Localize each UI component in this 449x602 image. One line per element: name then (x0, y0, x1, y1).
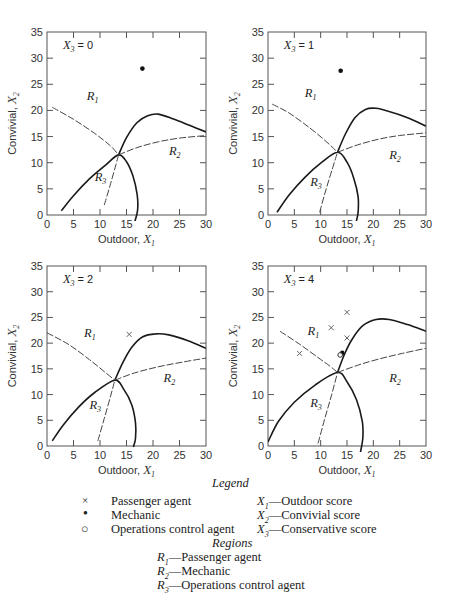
boundary-solid-lower (52, 380, 136, 447)
region-label: R1 (86, 89, 99, 105)
legend-symbol-passenger: × (82, 494, 88, 506)
mechanic-point (140, 66, 145, 71)
region-label: R1 (307, 324, 320, 340)
y-tick-label: 15 (252, 363, 264, 375)
x-axis-label: Outdoor, X1 (98, 231, 155, 248)
y-axis-label: Convivial, X2 (4, 325, 21, 388)
x-tick-label: 5 (291, 449, 297, 461)
boundary-dashed (47, 333, 115, 380)
region-label: R2 (388, 371, 401, 387)
y-tick-label: 30 (252, 52, 264, 64)
legend-label-mechanic: Mechanic (111, 508, 160, 523)
region-r3: R3—Operations control agent (157, 578, 305, 595)
boundary-solid-upper (115, 334, 206, 380)
y-tick-label: 0 (37, 440, 43, 452)
legend-symbol-mechanic: ● (83, 508, 88, 517)
y-axis-label: Convivial, X2 (225, 92, 242, 155)
y-tick-label: 0 (258, 209, 264, 221)
passenger-point (329, 325, 334, 330)
y-tick-label: 35 (31, 260, 43, 272)
x-tick-label: 30 (200, 218, 212, 230)
region-label: R1 (83, 326, 96, 342)
legend-title: Legend (212, 476, 249, 491)
x-tick-label: 0 (265, 449, 271, 461)
y-tick-label: 0 (258, 440, 264, 452)
x-tick-label: 10 (94, 218, 106, 230)
ops-agent-point (338, 353, 343, 358)
plot-frame (268, 266, 426, 446)
y-tick-label: 15 (31, 363, 43, 375)
passenger-point (345, 336, 350, 341)
y-tick-label: 30 (31, 286, 43, 298)
boundary-dashed (272, 104, 337, 152)
y-tick-label: 35 (252, 260, 264, 272)
x-tick-label: 25 (173, 218, 185, 230)
x-tick-label: 10 (94, 449, 106, 461)
y-tick-label: 20 (31, 337, 43, 349)
y-tick-label: 15 (31, 131, 43, 143)
x-axis-label: Outdoor, X1 (98, 462, 155, 479)
legend-variable-x3: X3—Conservative score (257, 522, 377, 539)
x-tick-label: 15 (120, 218, 132, 230)
y-tick-label: 25 (31, 78, 43, 90)
passenger-point (345, 310, 350, 315)
y-tick-label: 35 (252, 26, 264, 38)
boundary-solid-upper (338, 319, 426, 373)
legend-label-ops: Operations control agent (111, 522, 235, 537)
x-tick-label: 30 (200, 449, 212, 461)
x-tick-label: 5 (291, 218, 297, 230)
x-tick-label: 10 (315, 218, 327, 230)
plot-frame (47, 32, 206, 215)
y-tick-label: 10 (31, 389, 43, 401)
x-tick-label: 30 (420, 449, 432, 461)
y-tick-label: 30 (31, 52, 43, 64)
y-tick-label: 0 (37, 209, 43, 221)
region-label: R3 (88, 398, 101, 414)
chart-panel-1: 05101520253005101520253035Outdoor, X1Con… (4, 26, 212, 248)
y-tick-label: 35 (31, 26, 43, 38)
chart-panel-2: 05101520253005101520253035Outdoor, X1Con… (225, 26, 432, 248)
x-tick-label: 25 (173, 449, 185, 461)
x-tick-label: 20 (147, 449, 159, 461)
region-label: R2 (168, 144, 181, 160)
y-axis-label: Convivial, X2 (225, 325, 242, 388)
region-label: R1 (304, 86, 317, 102)
chart-panel-4: 05101520253005101520253035Outdoor, X1Con… (225, 260, 432, 479)
regions-title: Regions (212, 536, 252, 551)
y-tick-label: 10 (252, 157, 264, 169)
x-axis-label: Outdoor, X1 (318, 462, 375, 479)
passenger-point (297, 351, 302, 356)
passenger-point (127, 332, 132, 337)
y-tick-label: 5 (258, 414, 264, 426)
y-tick-label: 20 (31, 104, 43, 116)
panel-label: X3 = 1 (283, 38, 314, 54)
boundary-dashed (338, 133, 426, 152)
y-tick-label: 10 (31, 157, 43, 169)
boundary-solid-lower (268, 372, 363, 453)
boundary-dashed (119, 136, 206, 155)
plot-frame (268, 32, 426, 215)
boundary-dashed (338, 348, 426, 372)
y-tick-label: 15 (252, 131, 264, 143)
x-tick-label: 20 (147, 218, 159, 230)
y-tick-label: 20 (252, 104, 264, 116)
x-tick-label: 0 (44, 218, 50, 230)
region-label: R3 (309, 175, 322, 191)
x-axis-label: Outdoor, X1 (318, 231, 375, 248)
y-tick-label: 25 (252, 78, 264, 90)
x-tick-label: 15 (341, 218, 353, 230)
legend-label-passenger: Passenger agent (111, 494, 191, 509)
x-tick-label: 15 (120, 449, 132, 461)
boundary-dashed (104, 155, 118, 205)
region-label: R2 (163, 371, 176, 387)
region-label: R3 (309, 396, 322, 412)
y-tick-label: 20 (252, 337, 264, 349)
y-tick-label: 5 (258, 183, 264, 195)
x-tick-label: 5 (70, 218, 76, 230)
y-tick-label: 5 (37, 183, 43, 195)
x-tick-label: 15 (341, 449, 353, 461)
chart-canvas: 05101520253005101520253035Outdoor, X1Con… (0, 0, 449, 602)
boundary-dashed (52, 107, 118, 155)
boundary-solid-upper (119, 114, 206, 155)
x-tick-label: 20 (367, 449, 379, 461)
